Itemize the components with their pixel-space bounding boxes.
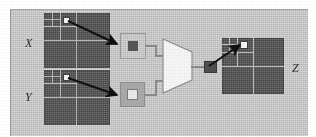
figure-canvas: X Y: [0, 0, 316, 137]
scan-noise-overlay: [0, 0, 316, 137]
